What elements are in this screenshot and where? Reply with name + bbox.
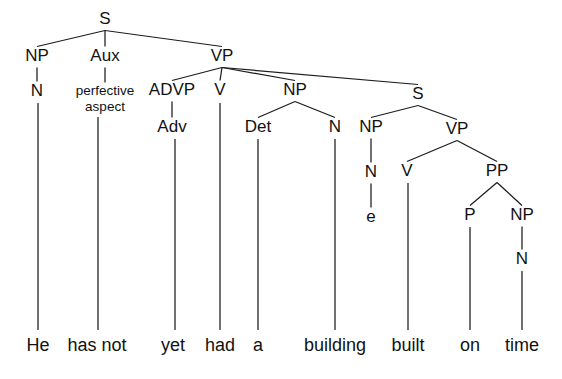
tree-branch xyxy=(222,68,418,85)
tree-node-n2: N xyxy=(329,117,341,136)
word-on: on xyxy=(460,335,480,355)
tree-node-pp: PP xyxy=(486,161,509,180)
tree-node-v1: V xyxy=(214,80,226,99)
word-had: had xyxy=(205,335,235,355)
tree-node-advp: ADVP xyxy=(149,80,195,99)
tree-node-empty: e xyxy=(366,207,375,226)
tree-branch xyxy=(371,106,418,118)
tree-node-np4: NP xyxy=(510,205,534,224)
tree-node-vp2: VP xyxy=(446,119,469,138)
word-layer: Hehas notyethadabuildingbuiltontime xyxy=(26,335,539,355)
word-has-not: has not xyxy=(67,335,126,355)
tree-node-layer: SNPAuxVPNperfectiveaspectADVPVNPSAdvDetN… xyxy=(25,9,534,268)
word-time: time xyxy=(505,335,539,355)
syntax-tree-figure: SNPAuxVPNperfectiveaspectADVPVNPSAdvDetN… xyxy=(0,0,562,379)
tree-branch xyxy=(105,31,222,47)
word-built: built xyxy=(391,335,424,355)
tree-node-p: P xyxy=(464,205,475,224)
tree-node-s: S xyxy=(99,9,110,28)
tree-node-np2: NP xyxy=(283,80,307,99)
tree-branch xyxy=(222,68,295,81)
tree-node-adv: Adv xyxy=(157,117,187,136)
tree-node-n3: N xyxy=(365,162,377,181)
tree-node-aux: Aux xyxy=(90,46,120,65)
tree-node-np1: NP xyxy=(25,46,49,65)
tree-node-auxfeat1: perfective xyxy=(76,83,135,98)
tree-branch xyxy=(407,141,457,162)
tree-node-v2: V xyxy=(401,161,413,180)
tree-branch xyxy=(258,102,295,118)
tree-branch xyxy=(457,141,497,162)
word-he: He xyxy=(26,335,49,355)
tree-node-vp1: VP xyxy=(211,46,234,65)
tree-branch xyxy=(37,31,105,47)
tree-branch xyxy=(470,183,497,206)
word-a: a xyxy=(253,335,264,355)
tree-branch xyxy=(497,183,522,206)
tree-branch xyxy=(172,68,222,81)
tree-node-n4: N xyxy=(516,249,528,268)
tree-branch xyxy=(418,106,457,120)
word-building: building xyxy=(304,335,366,355)
word-yet: yet xyxy=(161,335,185,355)
tree-node-np3: NP xyxy=(359,117,383,136)
tree-branch xyxy=(220,68,222,81)
tree-node-s2: S xyxy=(412,84,423,103)
tree-node-n1: N xyxy=(31,81,43,100)
tree-node-det: Det xyxy=(245,117,272,136)
tree-branch xyxy=(295,102,335,118)
tree-node-auxfeat2: aspect xyxy=(85,99,125,114)
syntax-tree-canvas: SNPAuxVPNperfectiveaspectADVPVNPSAdvDetN… xyxy=(0,0,562,379)
